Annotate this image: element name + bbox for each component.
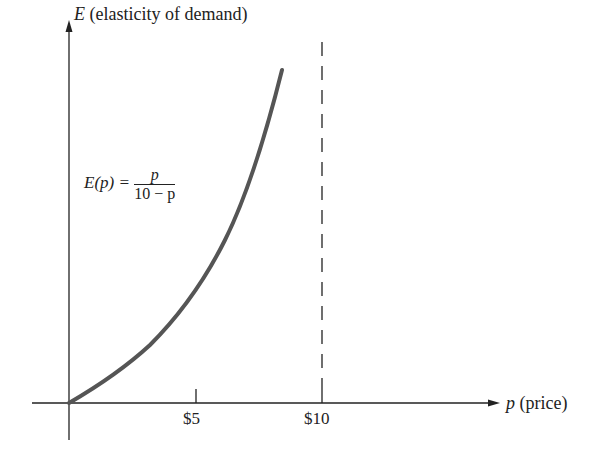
tick-label-10: $10 — [304, 409, 330, 429]
y-axis-label: E (elasticity of demand) — [74, 4, 247, 25]
elasticity-curve — [69, 70, 282, 403]
tick-label-5: $5 — [183, 409, 200, 429]
x-axis-arrow-icon — [488, 400, 500, 407]
formula-label: E(p) = p 10 − p — [84, 166, 175, 203]
formula-lhs: E(p) = — [84, 173, 130, 192]
x-axis-label: p (price) — [506, 393, 567, 414]
x-axis-var: p — [506, 393, 515, 413]
formula-denominator: 10 − p — [134, 185, 175, 203]
x-axis-text: (price) — [520, 393, 568, 413]
y-axis-arrow-icon — [66, 20, 73, 32]
chart-canvas — [0, 0, 610, 456]
formula-numerator: p — [134, 166, 175, 185]
formula-fraction: p 10 − p — [134, 166, 175, 203]
y-axis-text: (elasticity of demand) — [90, 4, 248, 24]
y-axis-var: E — [74, 4, 85, 24]
